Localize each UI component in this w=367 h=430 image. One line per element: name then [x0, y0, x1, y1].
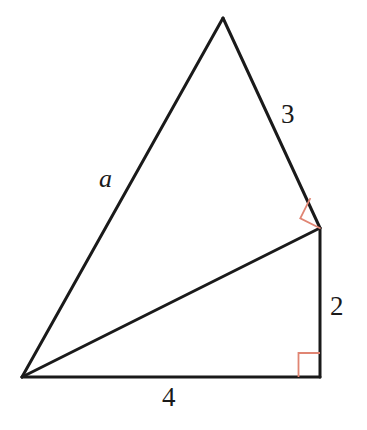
- segment-hypotenuse-line: [22, 228, 320, 377]
- segment-a-line: [22, 18, 223, 377]
- side-label-3: 3: [281, 101, 295, 128]
- figure-canvas: [0, 0, 367, 430]
- right-angle-lower-icon: [299, 353, 321, 377]
- segment-3-line: [223, 18, 320, 228]
- side-label-4: 4: [162, 384, 176, 411]
- geometry-figure: 3 a 2 4: [0, 0, 367, 430]
- side-label-a: a: [99, 166, 112, 192]
- side-label-2: 2: [330, 293, 344, 320]
